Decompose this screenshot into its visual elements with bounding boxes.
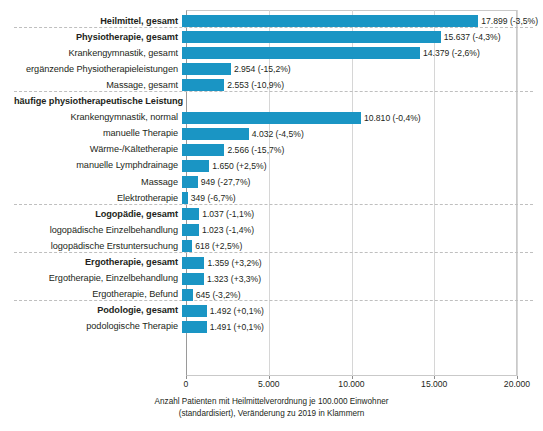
bar[interactable] (182, 63, 231, 75)
bar-row-label: Ergotherapie, Einzelbehandlung (0, 273, 182, 284)
bar-row: Wärme-/Kältetherapie2.566 (-15,7%) (0, 142, 543, 158)
bar-track: 15.637 (-4,3%) (182, 29, 513, 45)
bar-value-label: 1.359 (+3,2%) (204, 257, 261, 269)
axis-caption: Anzahl Patienten mit Heilmittelverordnun… (0, 396, 543, 419)
bar-track: 949 (-27,7%) (182, 174, 513, 190)
bar-row: ergänzende Physiotherapieleistungen2.954… (0, 61, 543, 77)
bar-rows: Heilmittel, gesamt17.899 (-3,5%)Physioth… (0, 10, 543, 376)
bar[interactable] (182, 321, 207, 333)
bar[interactable] (182, 257, 204, 269)
bar-value-label: 349 (-6,7%) (188, 192, 236, 204)
bar-row: podologische Therapie1.491 (+0,1%) (0, 319, 543, 335)
bar-value-label: 949 (-27,7%) (198, 176, 251, 188)
bar-value-label: 1.023 (-1,4%) (199, 224, 254, 236)
bar-track: 17.899 (-3,5%) (182, 13, 513, 29)
bar-track: 2.553 (-10,9%) (182, 77, 513, 93)
bar-track: 645 (-3,2%) (182, 287, 513, 303)
horizontal-bar-chart: Heilmittel, gesamt17.899 (-3,5%)Physioth… (0, 0, 543, 431)
bar-row: Podologie, gesamt1.492 (+0,1%) (0, 303, 543, 319)
bar-value-label: 1.323 (+3,3%) (204, 273, 261, 285)
bar-row: Logopädie, gesamt1.037 (-1,1%) (0, 206, 543, 222)
bar-track: 14.379 (-2,6%) (182, 45, 513, 61)
axis-tick-label: 5.000 (258, 379, 280, 389)
bar-row-label: Ergotherapie, Befund (0, 289, 182, 300)
bar-row-label: Wärme-/Kältetherapie (0, 144, 182, 155)
bar-row-label: Krankengymnastik, gesamt (0, 48, 182, 59)
bar[interactable] (182, 160, 209, 172)
bar[interactable] (182, 305, 207, 317)
axis-tick-label: 10.000 (338, 379, 364, 389)
bar[interactable] (182, 15, 478, 27)
bar-value-label: 10.810 (-0,4%) (361, 112, 421, 124)
bar[interactable] (182, 31, 441, 43)
bar-row-label: Elektrotherapie (0, 193, 182, 204)
bar-row: Ergotherapie, Einzelbehandlung1.323 (+3,… (0, 271, 543, 287)
bar-row-label: manuelle Lymphdrainage (0, 160, 182, 171)
bar-row: Heilmittel, gesamt17.899 (-3,5%) (0, 13, 543, 29)
bar-row-label: Podologie, gesamt (0, 305, 182, 316)
bar-track: 4.032 (-4,5%) (182, 126, 513, 142)
x-axis: 05.00010.00015.00020.000 (186, 376, 517, 392)
bar-row-label: Massage (0, 177, 182, 188)
bar[interactable] (182, 208, 199, 220)
bar-value-label: 2.566 (-15,7%) (224, 144, 284, 156)
bar-track: 2.954 (-15,2%) (182, 61, 513, 77)
bar-track: 1.323 (+3,3%) (182, 271, 513, 287)
bar-row: Massage949 (-27,7%) (0, 174, 543, 190)
bar-track: 618 (+2,5%) (182, 238, 513, 254)
bar-value-label: 1.491 (+0,1%) (207, 321, 264, 333)
bar-track: 2.566 (-15,7%) (182, 142, 513, 158)
bar-row: Massage, gesamt2.553 (-10,9%) (0, 77, 543, 93)
bar-row-label: logopädische Einzelbehandlung (0, 225, 182, 236)
bar[interactable] (182, 47, 420, 59)
axis-tick-label: 20.000 (504, 379, 530, 389)
bar[interactable] (182, 79, 224, 91)
bar-row: logopädische Erstuntersuchung618 (+2,5%) (0, 238, 543, 254)
bar[interactable] (182, 289, 193, 301)
bar[interactable] (182, 128, 249, 140)
bar-row-label: Krankengymnastik, normal (0, 112, 182, 123)
bar-row-label: Massage, gesamt (0, 80, 182, 91)
bar-value-label: 2.954 (-15,2%) (231, 63, 291, 75)
bar-row-label: häufige physiotherapeutische Leistung (0, 96, 182, 107)
bar-track: 10.810 (-0,4%) (182, 110, 513, 126)
bar-row-label: manuelle Therapie (0, 128, 182, 139)
bar-row: Krankengymnastik, normal10.810 (-0,4%) (0, 110, 543, 126)
bar-row-label: Heilmittel, gesamt (0, 16, 182, 27)
bar-row: Physiotherapie, gesamt15.637 (-4,3%) (0, 29, 543, 45)
bar-row-label: logopädische Erstuntersuchung (0, 241, 182, 252)
bar[interactable] (182, 240, 192, 252)
axis-tick-label: 0 (184, 379, 189, 389)
bar-value-label: 1.650 (+2,5%) (209, 160, 266, 172)
bar-row-label: Ergotherapie, gesamt (0, 257, 182, 268)
bar-row: logopädische Einzelbehandlung1.023 (-1,4… (0, 222, 543, 238)
bar-row-label: ergänzende Physiotherapieleistungen (0, 64, 182, 75)
bar-row: manuelle Therapie4.032 (-4,5%) (0, 126, 543, 142)
bar-value-label: 618 (+2,5%) (192, 240, 242, 252)
bar-value-label: 4.032 (-4,5%) (249, 128, 304, 140)
bar-value-label: 1.492 (+0,1%) (207, 305, 264, 317)
bar-value-label: 1.037 (-1,1%) (199, 208, 254, 220)
bar-row-label: Logopädie, gesamt (0, 209, 182, 220)
bar-row-label: podologische Therapie (0, 321, 182, 332)
bar[interactable] (182, 144, 224, 156)
bar-value-label: 15.637 (-4,3%) (441, 31, 501, 43)
bar-row: Ergotherapie, Befund645 (-3,2%) (0, 287, 543, 303)
bar-track: 1.037 (-1,1%) (182, 206, 513, 222)
bar[interactable] (182, 273, 204, 285)
bar[interactable] (182, 176, 198, 188)
bar-row: Ergotherapie, gesamt1.359 (+3,2%) (0, 255, 543, 271)
bar[interactable] (182, 112, 361, 124)
bar-track: 349 (-6,7%) (182, 190, 513, 206)
bar-row: Elektrotherapie349 (-6,7%) (0, 190, 543, 206)
bar-row: manuelle Lymphdrainage1.650 (+2,5%) (0, 158, 543, 174)
bar[interactable] (182, 224, 199, 236)
axis-caption-line1: Anzahl Patienten mit Heilmittelverordnun… (0, 396, 543, 408)
axis-caption-line2: (standardisiert), Veränderung zu 2019 in… (0, 408, 543, 420)
bar-track: 1.023 (-1,4%) (182, 222, 513, 238)
bar-row: Krankengymnastik, gesamt14.379 (-2,6%) (0, 45, 543, 61)
bar-row-label: Physiotherapie, gesamt (0, 32, 182, 43)
axis-tick-label: 15.000 (421, 379, 447, 389)
bar-track: 1.650 (+2,5%) (182, 158, 513, 174)
bar-track: 1.492 (+0,1%) (182, 303, 513, 319)
